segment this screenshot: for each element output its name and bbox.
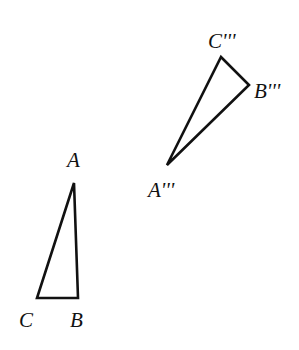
triangle-a3b3c3-shape bbox=[167, 57, 249, 165]
triangle-a3b3c3: A''' B''' C''' bbox=[146, 29, 281, 202]
label-b: B bbox=[70, 308, 83, 332]
triangle-abc: A B C bbox=[19, 148, 83, 332]
label-b-triple-prime: B''' bbox=[254, 79, 281, 103]
label-c: C bbox=[19, 308, 34, 332]
triangle-abc-shape bbox=[37, 183, 78, 298]
label-a-triple-prime: A''' bbox=[146, 178, 175, 202]
label-c-triple-prime: C''' bbox=[208, 29, 236, 53]
geometry-diagram: A B C A''' B''' C''' bbox=[0, 0, 299, 350]
label-a: A bbox=[65, 148, 80, 172]
